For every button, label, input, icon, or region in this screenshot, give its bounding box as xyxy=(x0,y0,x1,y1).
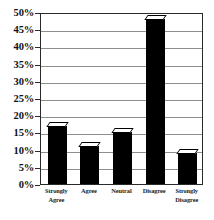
y-tick-label: 20% xyxy=(0,111,34,121)
y-tick-label: 5% xyxy=(0,163,34,173)
bar-top-cap xyxy=(144,15,166,20)
y-tick-label: 25% xyxy=(0,94,34,104)
y-tick-mark xyxy=(35,99,40,100)
bar-body xyxy=(146,19,165,184)
x-tick-label-line: Agree xyxy=(36,196,77,205)
y-tick-mark xyxy=(35,151,40,152)
bars-layer xyxy=(41,14,202,184)
y-tick-mark xyxy=(35,116,40,117)
y-tick-mark xyxy=(35,133,40,134)
y-tick-mark xyxy=(35,185,40,186)
bar-body xyxy=(178,153,197,184)
x-tick-label-line: Disagree xyxy=(166,196,207,205)
y-tick-mark xyxy=(35,47,40,48)
y-tick-mark xyxy=(35,30,40,31)
x-tick-label: StronglyDisagree xyxy=(166,187,207,204)
y-tick-label: 35% xyxy=(0,60,34,70)
bar-chart: 0%5%10%15%20%25%30%35%40%45%50% Strongly… xyxy=(0,0,214,220)
y-tick-label: 10% xyxy=(0,146,34,156)
y-tick-label: 50% xyxy=(0,8,34,18)
x-axis: StronglyAgreeAgreeNeutralDisagreeStrongl… xyxy=(40,187,203,220)
y-tick-label: 45% xyxy=(0,25,34,35)
y-tick-mark xyxy=(35,65,40,66)
bar-top-cap xyxy=(46,122,68,127)
y-axis: 0%5%10%15%20%25%30%35%40%45%50% xyxy=(0,8,36,188)
y-tick-label: 0% xyxy=(0,180,34,190)
bar xyxy=(80,12,99,184)
bar-body xyxy=(113,132,132,184)
y-tick-label: 30% xyxy=(0,77,34,87)
y-tick-mark xyxy=(35,168,40,169)
bar xyxy=(178,12,197,184)
y-tick-mark xyxy=(35,82,40,83)
bar xyxy=(146,12,165,184)
y-tick-label: 15% xyxy=(0,128,34,138)
bar xyxy=(113,12,132,184)
bar-top-cap xyxy=(111,128,133,133)
bar-body xyxy=(80,146,99,184)
bar-body xyxy=(48,126,67,184)
y-tick-mark xyxy=(35,13,40,14)
bar-top-cap xyxy=(177,149,199,154)
y-tick-label: 40% xyxy=(0,42,34,52)
x-tick-label-line: Strongly xyxy=(166,187,207,196)
bar xyxy=(48,12,67,184)
plot-area xyxy=(40,13,203,185)
